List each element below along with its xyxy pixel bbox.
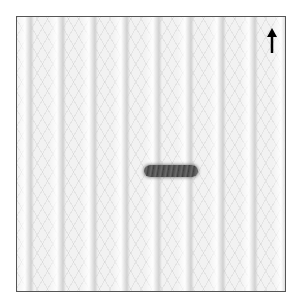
arrow-up-icon	[266, 28, 278, 54]
dark-yarn-mark	[144, 165, 198, 177]
fabric-photo	[16, 16, 286, 292]
